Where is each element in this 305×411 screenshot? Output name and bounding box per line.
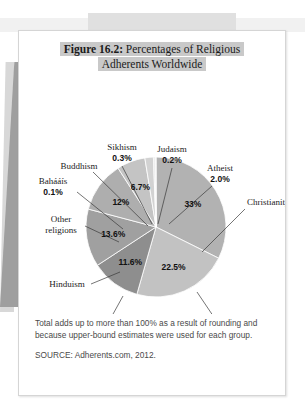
label-bahais: Bahááís <box>39 176 68 186</box>
label-judaism: Judaism <box>157 144 187 154</box>
value-islam: 22.5% <box>161 262 186 272</box>
value-other-religions: 12% <box>112 197 129 207</box>
value-buddhism: 6.7% <box>131 182 151 192</box>
leader-line <box>197 292 224 314</box>
figure-title-line1: Percentages of Religious <box>123 43 240 55</box>
leader-line <box>102 296 123 314</box>
value-hinduism: 13.6% <box>101 229 126 239</box>
label-sikhism: Sikhism <box>107 142 137 152</box>
label-hinduism: Hinduism <box>49 279 85 289</box>
label-other-religions-line2: religions <box>45 225 77 235</box>
figure-note: Total adds up to more than 100% as a res… <box>35 318 269 341</box>
figure-title: Figure 16.2: Percentages of Religious Ad… <box>31 42 273 72</box>
value-atheist: 2.0% <box>210 174 230 184</box>
label-other-religions-line1: Other <box>51 214 72 224</box>
label-christianity: Christianity <box>247 197 285 207</box>
figure-title-line2: Adherents Worldwide <box>98 57 207 71</box>
value-nonreligious: 11.6% <box>118 257 142 267</box>
pie-chart-svg: 33%22.5%11.6%13.6%12%6.7% Sikhism 0.3% J… <box>19 74 285 314</box>
pie-slices <box>86 157 226 297</box>
value-christianity: 33% <box>184 199 201 209</box>
value-judaism: 0.2% <box>162 155 182 165</box>
figure-card: Figure 16.2: Percentages of Religious Ad… <box>18 30 286 396</box>
value-sikhism: 0.3% <box>112 153 132 163</box>
figure-number: Figure 16.2: <box>64 43 123 55</box>
label-buddhism: Buddhism <box>60 161 97 171</box>
figure-source: SOURCE: Adherents.com, 2012. <box>35 350 269 360</box>
value-bahais: 0.1% <box>43 187 63 197</box>
label-atheist: Atheist <box>207 163 233 173</box>
pie-chart: 33%22.5%11.6%13.6%12%6.7% Sikhism 0.3% J… <box>19 74 285 314</box>
